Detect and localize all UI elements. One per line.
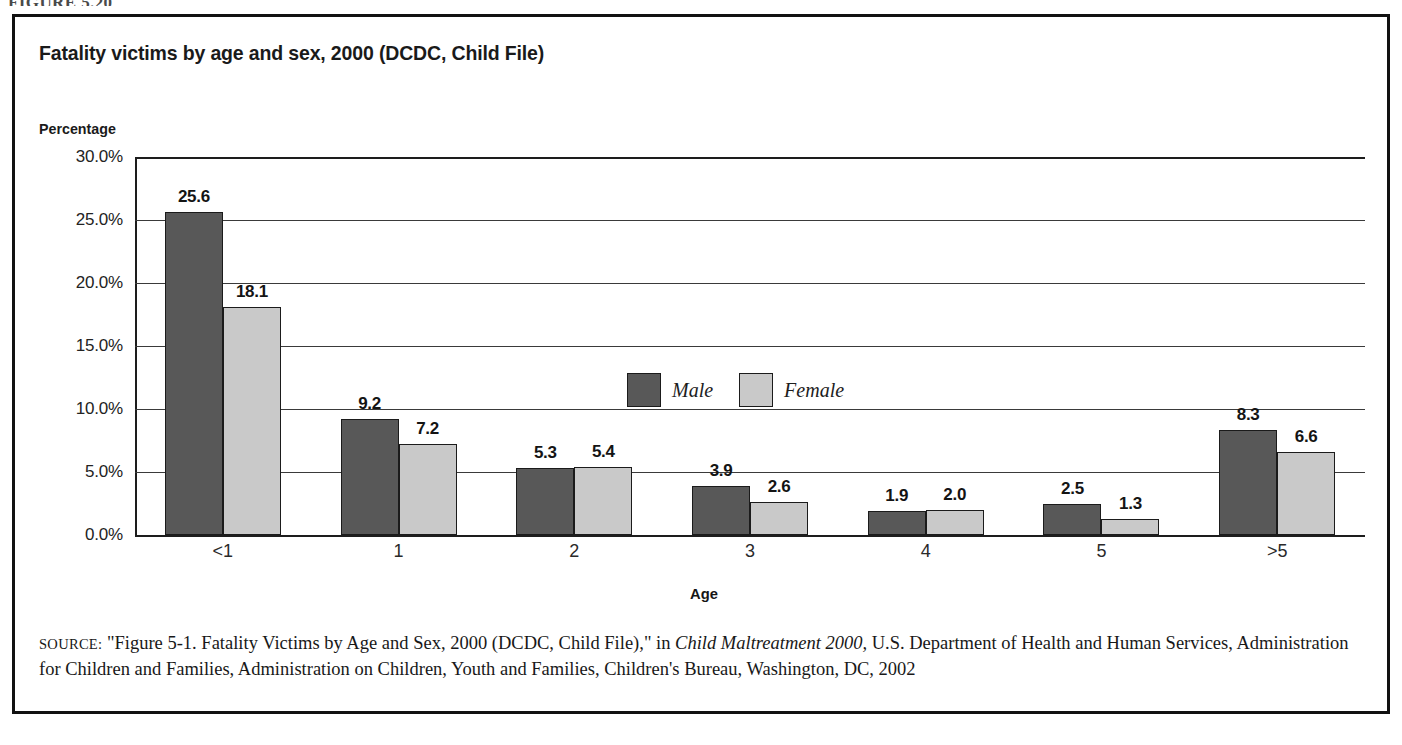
gridline: [135, 535, 1365, 537]
legend-item-male: Male: [627, 373, 713, 407]
source-note: SOURCE: "Figure 5-1. Fatality Victims by…: [39, 630, 1359, 683]
bar-group: 2.51.3: [1043, 157, 1159, 535]
bar-group: 25.618.1: [165, 157, 281, 535]
x-axis-tick-label: 4: [921, 541, 931, 562]
bar-male-5[interactable]: [1043, 504, 1101, 536]
bar-female-<1[interactable]: [223, 307, 281, 535]
bar-value-label: 7.2: [416, 419, 439, 439]
bar-value-label: 8.3: [1237, 405, 1260, 425]
bar-value-label: 1.3: [1119, 494, 1142, 514]
y-axis-tick-label: 0.0%: [85, 525, 123, 545]
bar-value-label: 2.5: [1061, 479, 1084, 499]
bar-value-label: 5.3: [534, 443, 557, 463]
y-axis-tick-label: 30.0%: [76, 147, 123, 167]
y-axis-tick-label: 10.0%: [76, 399, 123, 419]
bar-female-5[interactable]: [1101, 519, 1159, 535]
x-axis-tick-label: 1: [394, 541, 404, 562]
bar-group: 9.27.2: [341, 157, 457, 535]
x-axis-tick-label: >5: [1267, 541, 1288, 562]
x-axis-tick-labels: <112345>5: [135, 541, 1365, 575]
bar-value-label: 2.6: [768, 477, 791, 497]
y-axis-tick-label: 5.0%: [85, 462, 123, 482]
bar-value-label: 9.2: [358, 394, 381, 414]
figure-caption: FIGURE 5.20: [8, 0, 113, 6]
legend-label-female: Female: [784, 379, 844, 402]
bar-female-4[interactable]: [926, 510, 984, 535]
bar-male-2[interactable]: [516, 468, 574, 535]
figure-box: Fatality victims by age and sex, 2000 (D…: [12, 14, 1390, 714]
source-publication-title: Child Maltreatment 2000,: [675, 633, 867, 653]
x-axis-tick-label: 5: [1096, 541, 1106, 562]
x-axis-tick-label: <1: [213, 541, 234, 562]
chart-title: Fatality victims by age and sex, 2000 (D…: [39, 41, 544, 65]
male-swatch-icon: [627, 373, 661, 407]
bar-male-1[interactable]: [341, 419, 399, 535]
bar-value-label: 3.9: [710, 461, 733, 481]
legend-label-male: Male: [672, 379, 713, 402]
bar-female-3[interactable]: [750, 502, 808, 535]
bar-female->5[interactable]: [1277, 452, 1335, 535]
y-axis-title: Percentage: [39, 120, 116, 137]
y-axis-tick-label: 15.0%: [76, 336, 123, 356]
x-axis-title: Age: [49, 585, 1358, 603]
legend: Male Female: [627, 373, 844, 407]
bar-groups: 25.618.19.27.25.35.43.92.61.92.02.51.38.…: [135, 157, 1365, 535]
y-axis-tick-label: 20.0%: [76, 273, 123, 293]
bar-male-3[interactable]: [692, 486, 750, 535]
bar-male-4[interactable]: [868, 511, 926, 535]
bar-value-label: 2.0: [943, 485, 966, 505]
plot-area: 0.0%5.0%10.0%15.0%20.0%25.0%30.0% 25.618…: [15, 145, 1393, 575]
legend-item-female: Female: [739, 373, 844, 407]
bar-value-label: 5.4: [592, 442, 615, 462]
y-axis-tick-label: 25.0%: [76, 210, 123, 230]
bar-male->5[interactable]: [1219, 430, 1277, 535]
bar-group: 8.36.6: [1219, 157, 1335, 535]
bar-value-label: 1.9: [885, 486, 908, 506]
x-axis-tick-label: 3: [745, 541, 755, 562]
bar-group: 5.35.4: [516, 157, 632, 535]
bar-value-label: 6.6: [1295, 427, 1318, 447]
bar-group: 3.92.6: [692, 157, 808, 535]
source-label: SOURCE:: [39, 636, 102, 652]
bar-value-label: 25.6: [178, 187, 210, 207]
source-text-1: "Figure 5-1. Fatality Victims by Age and…: [102, 633, 675, 653]
y-axis-tick-labels: 0.0%5.0%10.0%15.0%20.0%25.0%30.0%: [15, 157, 123, 535]
bar-female-1[interactable]: [399, 444, 457, 535]
bar-female-2[interactable]: [574, 467, 632, 535]
bar-value-label: 18.1: [236, 282, 268, 302]
female-swatch-icon: [739, 373, 773, 407]
x-axis-tick-label: 2: [569, 541, 579, 562]
bar-group: 1.92.0: [868, 157, 984, 535]
bar-male-<1[interactable]: [165, 212, 223, 535]
